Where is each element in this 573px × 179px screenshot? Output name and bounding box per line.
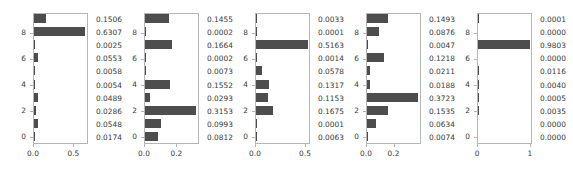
y-axis-tick (363, 111, 366, 112)
y-axis-tick (141, 85, 144, 86)
y-axis-tick (252, 33, 255, 34)
y-axis-label: 8 (341, 29, 359, 36)
bar (34, 14, 46, 23)
bar (478, 40, 530, 49)
y-axis-tick (363, 137, 366, 138)
y-axis-label: 6 (8, 55, 26, 62)
y-axis-label: 4 (8, 81, 26, 88)
y-axis-tick (474, 137, 477, 138)
bar-row (145, 12, 198, 25)
bar-row (34, 12, 87, 25)
bar-row (34, 64, 87, 77)
value-label: 0.0188 (429, 79, 455, 92)
bar (367, 14, 388, 23)
bar-row (34, 38, 87, 51)
bar-row (367, 12, 420, 25)
y-axis-label: 0 (452, 133, 470, 140)
bar (367, 106, 388, 115)
value-label: 0.1552 (207, 79, 233, 92)
bar-row (256, 91, 309, 104)
bar (145, 119, 161, 128)
bar (145, 80, 170, 89)
bar-row (256, 51, 309, 64)
plot-inner-4 (367, 14, 420, 143)
bar-row (145, 64, 198, 77)
value-label: 0.0054 (96, 79, 122, 92)
bar (145, 53, 146, 62)
y-axis-tick (252, 85, 255, 86)
bar-row (256, 38, 309, 51)
bar (478, 106, 479, 115)
value-label: 0.1506 (96, 13, 122, 26)
bar (256, 119, 257, 128)
y-axis-tick (252, 59, 255, 60)
bar-row (145, 38, 198, 51)
plot-inner-1 (34, 14, 87, 143)
bar-row (478, 12, 531, 25)
bar-row (256, 104, 309, 117)
y-axis-label: 0 (119, 133, 137, 140)
value-label: 0.0116 (540, 65, 566, 78)
x-axis-tick (366, 144, 367, 147)
y-axis-tick (141, 33, 144, 34)
x-axis-tick (530, 144, 531, 147)
bar (367, 66, 370, 75)
bar-row (34, 104, 87, 117)
bar (367, 132, 368, 141)
y-axis-label: 8 (119, 29, 137, 36)
bar (256, 80, 269, 89)
y-axis-tick (363, 33, 366, 34)
bar-row (478, 91, 531, 104)
x-axis-tick-label: 1 (517, 150, 543, 157)
bar (367, 53, 384, 62)
bar-row (367, 130, 420, 143)
y-axis-label: 0 (341, 133, 359, 140)
bar (34, 53, 38, 62)
y-axis-label: 4 (341, 81, 359, 88)
y-axis-label: 8 (452, 29, 470, 36)
y-axis-label: 6 (119, 55, 137, 62)
bar (145, 14, 169, 23)
y-axis-label: 6 (341, 55, 359, 62)
plot-area-5 (477, 13, 532, 144)
bar-row (34, 25, 87, 38)
value-label: 0.1535 (429, 105, 455, 118)
x-axis-tick-label: 0.0 (20, 150, 46, 157)
bar-row (478, 51, 531, 64)
x-axis-tick-label: 0.0 (131, 150, 157, 157)
bar (367, 119, 376, 128)
y-axis-tick (30, 59, 33, 60)
x-axis-tick-label: 0.5 (60, 150, 86, 157)
bar-row (145, 104, 198, 117)
bar-row (145, 25, 198, 38)
bar-row (34, 78, 87, 91)
value-label: 0.0033 (318, 13, 344, 26)
value-label: 0.0876 (429, 26, 455, 39)
bar (34, 27, 85, 36)
value-label: 0.0001 (318, 118, 344, 131)
bar-row (478, 130, 531, 143)
x-axis-tick-label: 0.5 (292, 150, 318, 157)
bar-chart-figure: 024680.00.50.15060.63070.00250.05530.005… (0, 0, 573, 179)
value-label: 0.1153 (318, 92, 344, 105)
bar (367, 80, 370, 89)
bar-row (367, 117, 420, 130)
bar (34, 119, 38, 128)
y-axis-tick (252, 111, 255, 112)
bar (256, 27, 257, 36)
value-label: 0.1493 (429, 13, 455, 26)
value-label: 0.0548 (96, 118, 122, 131)
plot-area-3 (255, 13, 310, 144)
value-label: 0.3723 (429, 92, 455, 105)
x-axis-tick (144, 144, 145, 147)
value-label: 0.0005 (540, 92, 566, 105)
bar-row (367, 64, 420, 77)
bar (367, 93, 418, 102)
bar (256, 53, 257, 62)
bar-row (367, 38, 420, 51)
x-axis-tick-label: 0.0 (242, 150, 268, 157)
y-axis-tick (30, 137, 33, 138)
value-label: 0.0293 (207, 92, 233, 105)
bar (145, 132, 158, 141)
value-label: 0.0812 (207, 131, 233, 144)
